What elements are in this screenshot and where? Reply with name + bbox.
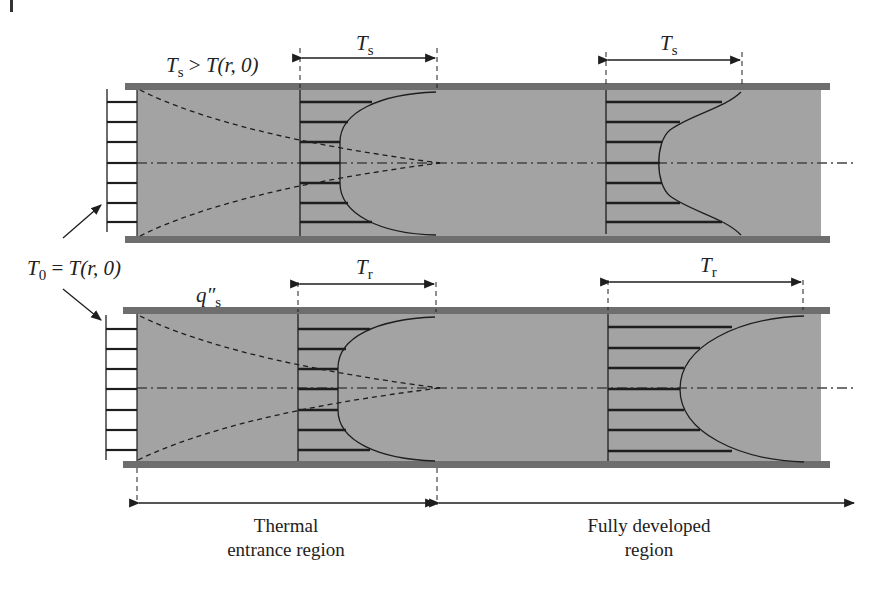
top-wall-upper — [125, 83, 830, 90]
thermal-entrance-diagram: Ts > T(r, 0) Ts Ts T0 = T(r, 0) — [0, 0, 876, 590]
developed-region-label-line1: Fully developed — [588, 515, 711, 536]
entrance-region-label-line2: entrance region — [227, 539, 345, 560]
inlet-label: T0 = T(r, 0) — [27, 256, 121, 283]
bottom-inlet-profile — [106, 314, 137, 461]
top-profile1-label: Ts — [356, 31, 374, 58]
bottom-profile1-label: Tr — [356, 255, 373, 282]
bottom-wall-upper — [123, 307, 830, 314]
top-wall-lower — [125, 236, 830, 243]
top-condition-label: Ts > T(r, 0) — [166, 53, 258, 80]
top-profile2-label: Ts — [660, 31, 678, 58]
developed-region-label-line2: region — [625, 539, 674, 560]
bottom-condition-label: q″s — [196, 283, 221, 310]
entrance-region-label-line1: Thermal — [254, 515, 318, 536]
top-panel-constant-temperature: Ts > T(r, 0) Ts Ts — [107, 31, 855, 243]
region-annotations: Thermal entrance region Fully developed … — [137, 468, 854, 560]
bottom-wall-lower — [123, 461, 830, 468]
bottom-profile2-label: Tr — [700, 253, 717, 280]
top-inlet-profile — [107, 89, 137, 236]
bottom-panel-constant-heat-flux: q″s Tr Tr — [106, 253, 855, 468]
bottom-dimension-2 — [608, 280, 803, 310]
corner-mark — [10, 0, 13, 12]
